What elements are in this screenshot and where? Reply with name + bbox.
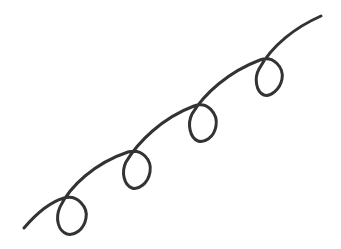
curly-line-path xyxy=(24,16,321,234)
curly-line-icon xyxy=(0,0,341,249)
drawing-canvas xyxy=(0,0,341,249)
